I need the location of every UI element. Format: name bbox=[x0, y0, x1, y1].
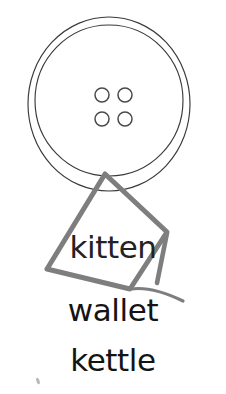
drawing-surface bbox=[0, 0, 226, 394]
image-canvas: kitten wallet kettle bbox=[0, 0, 226, 394]
background bbox=[0, 0, 226, 394]
